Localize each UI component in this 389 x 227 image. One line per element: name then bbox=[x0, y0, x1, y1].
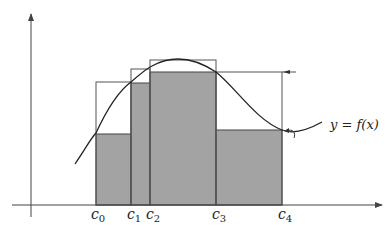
label-c0: c0 bbox=[91, 206, 105, 224]
label-c1: c1 bbox=[127, 206, 141, 224]
max-level-arrow-icon bbox=[283, 70, 290, 74]
lower-rect-1 bbox=[96, 134, 131, 205]
label-c2: c2 bbox=[146, 206, 160, 224]
lower-rect-2 bbox=[131, 83, 150, 205]
label-c4: c4 bbox=[278, 206, 292, 224]
lower-sum-rectangles bbox=[96, 72, 282, 205]
lower-rect-3 bbox=[150, 72, 216, 205]
partition-labels: c0 c1 c2 c3 c4 bbox=[91, 206, 292, 224]
curve-label: y = f(x) bbox=[329, 117, 379, 132]
label-c3: c3 bbox=[212, 206, 226, 224]
lower-rect-4 bbox=[216, 130, 282, 205]
riemann-sum-diagram: y = f(x) c0 c1 c2 c3 c4 bbox=[0, 0, 389, 227]
